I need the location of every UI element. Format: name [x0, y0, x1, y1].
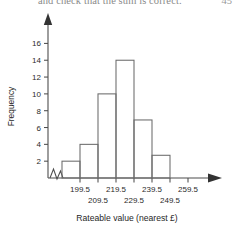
y-tick-label: 8 [37, 107, 42, 116]
histogram-bar [80, 144, 98, 178]
x-tick-label-lower: 209.5 [88, 196, 109, 205]
y-tick-label: 2 [37, 157, 42, 166]
y-axis-title: Frequency [6, 86, 16, 126]
histogram-figure: 246810121416 Frequency 199.5219.5239.525… [0, 11, 236, 229]
header-running-text: and check that the sum is correct. [38, 0, 182, 6]
x-tick-label-upper: 239.5 [142, 185, 163, 194]
x-axis-ticks: 199.5219.5239.5259.5209.5229.5249.5 [70, 178, 199, 205]
y-tick-label: 10 [32, 90, 41, 99]
page-header: and check that the sum is correct. 45 [0, 0, 236, 11]
x-tick-label-lower: 249.5 [160, 196, 181, 205]
y-tick-label: 6 [37, 124, 42, 133]
x-axis-title: Rateable value (nearest £) [76, 213, 177, 223]
histogram-chart: 246810121416 Frequency 199.5219.5239.525… [0, 11, 236, 229]
x-axis: 199.5219.5239.5259.5209.5229.5249.5 Rate… [48, 169, 222, 223]
page-number: 45 [222, 0, 233, 6]
x-tick-label-upper: 219.5 [106, 185, 127, 194]
y-tick-label: 14 [32, 56, 41, 65]
x-tick-label-upper: 259.5 [178, 185, 199, 194]
y-tick-label: 12 [32, 73, 41, 82]
histogram-bar [134, 120, 152, 178]
histogram-bar [62, 161, 80, 178]
y-axis-arrow-icon [44, 13, 52, 25]
histogram-bar [116, 60, 134, 178]
histogram-bar [98, 94, 116, 178]
x-axis-arrow-icon [208, 173, 222, 182]
histogram-bar [152, 155, 170, 178]
x-tick-label-upper: 199.5 [70, 185, 91, 194]
y-axis: 246810121416 Frequency [6, 13, 52, 178]
y-tick-label: 4 [37, 140, 42, 149]
y-tick-label: 16 [32, 39, 41, 48]
x-tick-label-lower: 229.5 [124, 196, 145, 205]
y-axis-ticks: 246810121416 [32, 39, 48, 166]
histogram-bars [62, 60, 170, 178]
